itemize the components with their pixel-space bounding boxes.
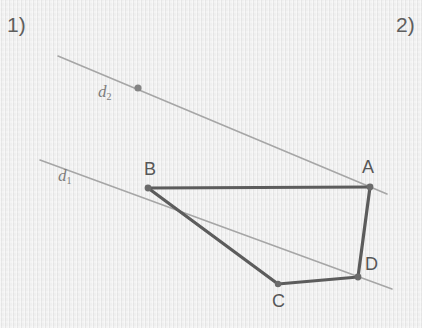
vertex-label-a: A [362,158,374,176]
line-label-d2-subscript: 2 [107,91,112,102]
edge-cb [148,188,278,284]
exercise-number-1: 1) [7,14,26,35]
line-label-d2-letter: d [98,82,107,101]
vertex-dot-a [367,184,374,191]
vertex-dot-c [275,281,281,287]
line-d1 [40,160,392,289]
exercise-number-2: 2) [396,14,415,35]
edge-dc [278,277,358,284]
line-label-d2: d2 [98,83,112,100]
vertex-label-b: B [144,160,156,178]
vertex-label-d: D [365,255,378,273]
construction-lines [40,56,392,289]
vertex-dot-b [145,185,152,192]
line-d2 [58,56,387,194]
geometry-figure [0,0,422,328]
vertex-dot-d [355,274,362,281]
worksheet-canvas: 1) 2) A B C D d1 d2 [0,0,422,328]
line-d2-point-dot [134,84,141,91]
line-label-d1: d1 [58,167,72,184]
line-label-d1-subscript: 1 [67,175,72,186]
vertex-label-c: C [272,292,285,310]
line-label-d1-letter: d [58,166,67,185]
edge-ba [148,187,370,188]
